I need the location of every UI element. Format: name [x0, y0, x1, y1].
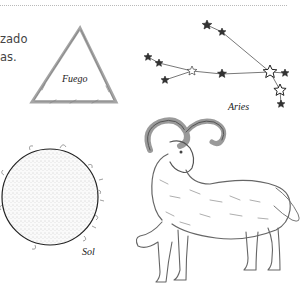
- star-icon: [187, 66, 197, 75]
- star-icon: [161, 76, 169, 83]
- ram-illustration: [136, 120, 299, 282]
- aries-label: Aries: [228, 101, 249, 112]
- illustrations-canvas: [0, 0, 307, 294]
- star-icon: [144, 53, 152, 60]
- sun-label: Sol: [82, 246, 95, 257]
- star-icon: [281, 69, 289, 76]
- fire-triangle-icon: [32, 28, 116, 103]
- aries-constellation-lines: [148, 25, 285, 104]
- star-icon: [218, 69, 227, 77]
- star-icon: [202, 20, 212, 29]
- star-icon: [155, 59, 163, 66]
- textbook-page: zado as.: [0, 0, 307, 294]
- sun-illustration: [0, 145, 104, 249]
- star-icon: [277, 100, 285, 107]
- aries-stars: [144, 20, 289, 107]
- fire-label: Fuego: [62, 73, 88, 84]
- star-icon: [263, 65, 277, 78]
